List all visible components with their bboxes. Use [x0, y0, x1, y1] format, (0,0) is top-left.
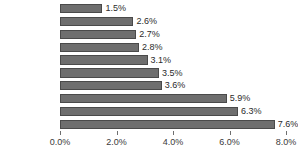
bar-row: ラオス2.8%: [60, 41, 286, 54]
bar-row: タイ7.6%: [60, 118, 286, 131]
bar-row: インドネシア3.6%: [60, 79, 286, 92]
bar-chart: ミャンマー1.5%カンボジア2.6%フィリピン2.7%ラオス2.8%シンガポール…: [0, 0, 298, 161]
bar-row: フィリピン2.7%: [60, 28, 286, 41]
bar: [60, 30, 136, 39]
bar: [60, 43, 139, 52]
x-tick-label: 4.0%: [163, 137, 184, 147]
x-tick-label: 2.0%: [106, 137, 127, 147]
bar-row: カンボジア2.6%: [60, 15, 286, 28]
bar-value-label: 7.6%: [275, 118, 298, 131]
y-axis-line: [0, 0, 1, 130]
x-tick-label: 0.0%: [50, 137, 71, 147]
bar-value-label: 2.7%: [136, 28, 160, 41]
bar-value-label: 2.8%: [139, 41, 163, 54]
bar-row: ブルネイ3.5%: [60, 67, 286, 80]
bar-value-label: 5.9%: [227, 92, 251, 105]
bar-row: シンガポール3.1%: [60, 54, 286, 67]
x-tick: [230, 131, 231, 135]
bar: [60, 17, 133, 26]
x-tick: [117, 131, 118, 135]
bar: [60, 107, 238, 116]
bar: [60, 68, 159, 77]
bar-row: ベトナム6.3%: [60, 105, 286, 118]
x-tick-label: 8.0%: [276, 137, 297, 147]
x-tick: [60, 131, 61, 135]
x-tick: [173, 131, 174, 135]
bar-value-label: 6.3%: [238, 105, 262, 118]
bar: [60, 55, 148, 64]
bar: [60, 94, 227, 103]
bar-value-label: 3.5%: [159, 67, 183, 80]
bar-row: ミャンマー1.5%: [60, 2, 286, 15]
x-tick-label: 6.0%: [219, 137, 240, 147]
bar: [60, 4, 102, 13]
bar-value-label: 1.5%: [102, 2, 126, 15]
bar-value-label: 2.6%: [133, 15, 157, 28]
bar: [60, 120, 275, 129]
bar-row: マレーシア5.9%: [60, 92, 286, 105]
bar-value-label: 3.6%: [162, 79, 186, 92]
bar: [60, 81, 162, 90]
x-tick: [286, 131, 287, 135]
bar-value-label: 3.1%: [148, 54, 172, 67]
